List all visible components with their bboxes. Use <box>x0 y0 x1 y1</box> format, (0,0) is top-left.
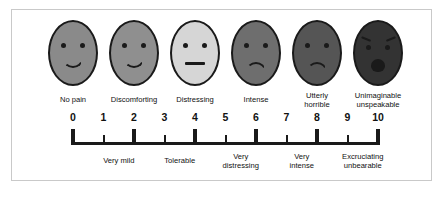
face-circle-icon <box>170 20 220 86</box>
mouth-frown-icon <box>307 62 327 73</box>
scale-number-5[interactable]: 5 <box>214 112 238 123</box>
mouth-wail-icon <box>371 59 385 72</box>
scale-number-9[interactable]: 9 <box>336 112 360 123</box>
scale-number-10[interactable]: 10 <box>366 112 390 123</box>
scale-number-7[interactable]: 7 <box>275 112 299 123</box>
scale-baseline-bar[interactable] <box>71 142 379 145</box>
face-circle-icon <box>292 20 342 86</box>
face-unimaginable[interactable] <box>353 20 403 86</box>
face-no-pain[interactable] <box>48 20 98 86</box>
scale-number-1[interactable]: 1 <box>92 112 116 123</box>
face-intense[interactable] <box>231 20 281 86</box>
pain-scale-diagram: No painDiscomfortingDistressingIntenseUt… <box>0 0 446 197</box>
scale-number-0[interactable]: 0 <box>61 112 85 123</box>
face-circle-icon <box>48 20 98 86</box>
scale-number-2[interactable]: 2 <box>122 112 146 123</box>
scale-number-4[interactable]: 4 <box>183 112 207 123</box>
mouth-frown-icon <box>246 62 266 73</box>
face-utterly-horrible[interactable] <box>292 20 342 86</box>
descriptor-excruciating-unbearable: Excruciating unbearable <box>327 153 399 170</box>
face-circle-icon <box>231 20 281 86</box>
scale-number-6[interactable]: 6 <box>244 112 268 123</box>
scale-number-3[interactable]: 3 <box>153 112 177 123</box>
face-label-unimaginable: Unimaginable unspeakable <box>342 92 414 109</box>
face-discomforting[interactable] <box>109 20 159 86</box>
face-distressing[interactable] <box>170 20 220 86</box>
face-circle-icon <box>109 20 159 86</box>
mouth-neutral-icon <box>185 62 205 65</box>
scale-number-8[interactable]: 8 <box>305 112 329 123</box>
face-circle-icon <box>353 20 403 86</box>
